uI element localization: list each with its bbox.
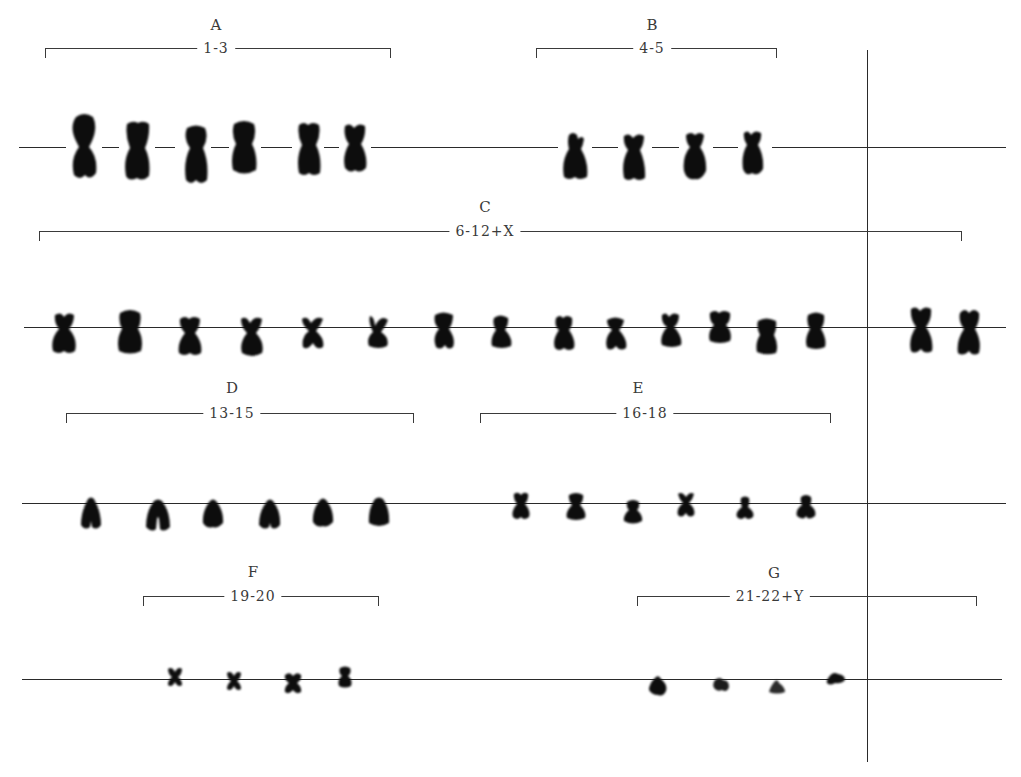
- group-letter-c: C: [479, 200, 490, 215]
- sex-chromosome-divider: [867, 50, 868, 762]
- chromosome-d1: [79, 497, 103, 531]
- chromosome-f1: [165, 666, 185, 688]
- chromosome-a3: [181, 124, 211, 186]
- chromosome-x1: [907, 305, 935, 355]
- chromosome-b4: [740, 129, 766, 177]
- chromosome-c13: [754, 317, 780, 355]
- chromosome-b2: [620, 132, 648, 182]
- chromosome-c1: [49, 311, 79, 355]
- chromosome-g1: [647, 675, 669, 697]
- chromosome-c2: [116, 309, 144, 355]
- chromosome-e5: [734, 495, 756, 521]
- chromosome-g4: [825, 671, 847, 687]
- chromosome-e6: [794, 494, 818, 520]
- group-letter-g: G: [768, 566, 780, 581]
- chromosome-f3: [282, 671, 304, 695]
- chromosome-f2: [224, 670, 244, 692]
- chromosome-a4: [230, 120, 258, 176]
- chromosome-a2: [123, 120, 151, 182]
- chromosome-c4: [238, 315, 266, 357]
- chromosome-g2: [711, 676, 731, 694]
- chromosome-y-or-g3: [767, 679, 787, 695]
- chromosome-c14: [803, 311, 829, 351]
- chromosome-a5: [296, 121, 322, 177]
- group-letter-e: E: [633, 381, 644, 396]
- chromosome-d2: [144, 499, 172, 533]
- chromosome-d3: [201, 499, 225, 529]
- range-label-c: 6-12+X: [449, 224, 520, 238]
- chromosome-d6: [367, 497, 391, 529]
- chromosome-c10: [603, 316, 629, 352]
- range-label-f: 19-20: [224, 589, 281, 603]
- chromosome-b3: [681, 131, 709, 181]
- range-label-e: 16-18: [616, 406, 673, 420]
- chromosome-b1: [561, 131, 589, 181]
- chromosome-c12: [706, 309, 734, 345]
- chromosome-e3: [622, 499, 644, 525]
- chromosome-e1: [510, 491, 532, 521]
- group-letter-b: B: [646, 18, 657, 33]
- range-label-b: 4-5: [633, 41, 671, 55]
- chromosome-c3: [176, 315, 204, 357]
- group-letter-a: A: [211, 18, 222, 33]
- row-1-baseline: [19, 147, 1006, 148]
- chromosome-d4: [257, 499, 283, 531]
- karyotype-figure: A 1-3 B 4-5 C 6-12+X D 13-15 E 16-18 F 1…: [0, 0, 1021, 777]
- chromosome-x2: [955, 307, 983, 357]
- range-label-g: 21-22+Y: [730, 589, 810, 603]
- chromosome-a6: [342, 122, 368, 174]
- chromosome-c8: [488, 314, 514, 350]
- chromosome-e4: [675, 491, 697, 519]
- chromosome-c6: [365, 314, 391, 350]
- group-letter-f: F: [248, 565, 258, 580]
- range-label-a: 1-3: [197, 41, 235, 55]
- group-letter-d: D: [226, 381, 238, 396]
- chromosome-c5: [299, 315, 327, 351]
- chromosome-c9: [551, 314, 577, 352]
- row-2-baseline: [24, 327, 1006, 328]
- chromosome-d5: [311, 498, 335, 528]
- chromosome-e2: [564, 492, 588, 522]
- chromosome-f4: [336, 665, 354, 689]
- chromosome-a1: [68, 113, 100, 181]
- chromosome-c7: [431, 311, 457, 351]
- chromosome-c11: [658, 311, 684, 349]
- range-label-d: 13-15: [203, 406, 260, 420]
